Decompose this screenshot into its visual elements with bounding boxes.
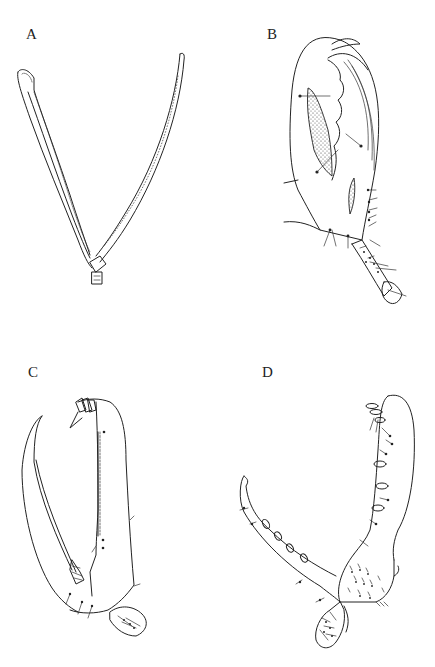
appendage-drawing-c: [0, 340, 220, 667]
appendage-drawing-a: [0, 0, 220, 340]
panel-d: D: [220, 340, 435, 667]
panel-c: C: [0, 340, 220, 667]
appendage-drawing-b: [220, 0, 435, 340]
appendage-drawing-d: [220, 340, 435, 667]
panel-a: A: [0, 0, 220, 340]
panel-b: B: [220, 0, 435, 340]
